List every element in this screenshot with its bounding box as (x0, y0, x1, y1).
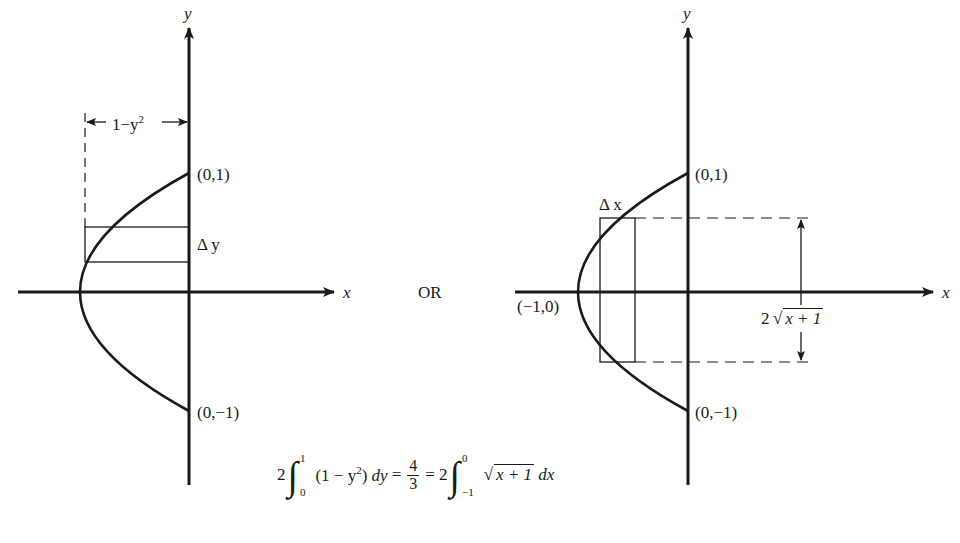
width-label-exponent: 2 (139, 113, 145, 125)
right-point-bottom: (0,−1) (695, 404, 737, 421)
integrand-1-text: (1 − y (315, 466, 356, 485)
width-label-text: 1−y (112, 115, 139, 134)
right-x-axis-label: x (942, 284, 950, 301)
left-x-axis-label: x (343, 284, 351, 301)
left-y-axis-label: y (184, 5, 192, 22)
integrand-2-radicand: x + 1 (494, 464, 534, 484)
integral-sign-1: ∫ (288, 455, 298, 495)
fraction-numerator: 4 (407, 458, 419, 476)
integral-2-limits: 0 −1 (462, 452, 474, 498)
fraction-denominator: 3 (409, 476, 417, 493)
fraction-four-thirds: 4 3 (407, 458, 419, 493)
area-equation: 2 ∫ 1 0 (1 − y2) dy = 4 3 = 2 ∫ 0 −1 √x … (277, 452, 554, 498)
left-horizontal-strip (85, 227, 189, 262)
integral-2-differential: dx (538, 465, 554, 484)
right-vertical-strip (600, 218, 635, 362)
height-label-radicand: x + 1 (783, 308, 823, 328)
integral-1-differential: dy (372, 466, 388, 485)
delta-y-label: Δ y (197, 236, 220, 253)
delta-x-label: Δ x (599, 196, 622, 213)
integral-1-lower: 0 (300, 486, 306, 498)
left-point-top: (0,1) (197, 166, 230, 183)
height-label-coef: 2 (761, 309, 770, 328)
width-label: 1−y2 (111, 114, 145, 133)
left-diagram (18, 28, 334, 485)
integral-sign-2: ∫ (450, 455, 460, 495)
right-point-vertex: (−1,0) (517, 298, 559, 315)
integrand-1-close: ) (362, 466, 368, 485)
right-y-axis-label: y (683, 5, 691, 22)
integral-1-upper: 1 (300, 452, 306, 464)
equals-2: = 2 (425, 465, 447, 485)
left-point-bottom: (0,−1) (197, 404, 239, 421)
eq-coef-1: 2 (277, 465, 286, 485)
equals-1: = (392, 465, 402, 485)
integral-2-upper: 0 (462, 452, 474, 464)
integral-2-integrand: √x + 1 dx (484, 465, 555, 485)
height-label: 2 √x + 1 (761, 310, 823, 327)
integral-2-lower: −1 (462, 486, 474, 498)
integral-1-integrand: (1 − y2) dy (315, 464, 387, 486)
integral-1-limits: 1 0 (300, 452, 306, 498)
right-point-top: (0,1) (695, 166, 728, 183)
or-separator: OR (418, 284, 442, 301)
